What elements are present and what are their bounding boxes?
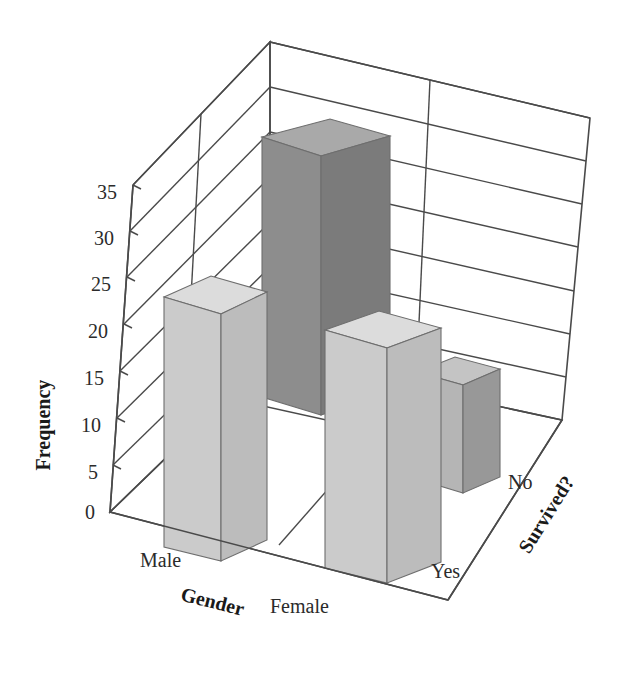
bar-female-no-front bbox=[262, 137, 321, 415]
chart-container: 35 30 25 20 15 10 5 0 Male Female No Yes… bbox=[0, 0, 621, 676]
bar-male-no-side bbox=[221, 292, 267, 561]
x-tick-male: Male bbox=[140, 549, 181, 571]
bar-male-yes[interactable] bbox=[325, 311, 441, 583]
x-axis-title: Gender bbox=[179, 583, 247, 620]
bar-male-no-front bbox=[164, 297, 221, 561]
x-tick-female: Female bbox=[270, 595, 329, 617]
y-tick-labels: 35 30 25 20 15 10 5 0 bbox=[81, 181, 117, 523]
bar-female-yes-side bbox=[463, 369, 500, 493]
y-tick-25: 25 bbox=[91, 273, 111, 295]
z-tick-yes: Yes bbox=[431, 560, 460, 582]
bar-chart-3d: 35 30 25 20 15 10 5 0 Male Female No Yes… bbox=[0, 0, 621, 676]
bar-male-yes-front bbox=[325, 330, 387, 583]
z-tick-no: No bbox=[508, 471, 532, 493]
bar-male-yes-side bbox=[387, 328, 441, 583]
bar-male-no[interactable] bbox=[164, 276, 267, 561]
y-tick-5: 5 bbox=[88, 461, 98, 483]
y-tick-35: 35 bbox=[97, 181, 117, 203]
y-tick-20: 20 bbox=[88, 320, 108, 342]
y-tick-15: 15 bbox=[84, 367, 104, 389]
y-tick-10: 10 bbox=[81, 414, 101, 436]
y-tick-30: 30 bbox=[94, 227, 114, 249]
y-axis-title: Frequency bbox=[32, 380, 55, 471]
y-tick-0: 0 bbox=[85, 501, 95, 523]
